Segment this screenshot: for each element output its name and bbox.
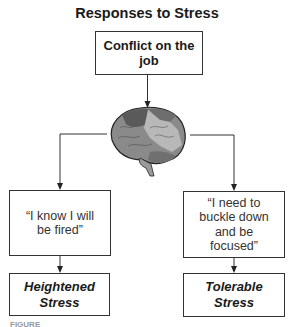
result-heightened-line1: Heightened	[24, 279, 95, 295]
thought-box-positive: “I need to buckle down and be focused”	[183, 191, 285, 258]
result-box-heightened: Heightened Stress	[9, 273, 110, 316]
thought-box-negative: “I know I will be fired”	[9, 190, 111, 256]
thought-text-negative: “I know I will be fired”	[20, 209, 100, 238]
thought-text-positive: “I need to buckle down and be focused”	[191, 196, 277, 254]
result-box-tolerable: Tolerable Stress	[183, 273, 285, 317]
brain-icon	[111, 107, 185, 176]
result-heightened-line2: Stress	[24, 295, 95, 311]
result-tolerable-line1: Tolerable	[205, 279, 262, 295]
result-tolerable-line2: Stress	[205, 295, 262, 311]
figure-caption: FIGURE	[10, 320, 40, 327]
